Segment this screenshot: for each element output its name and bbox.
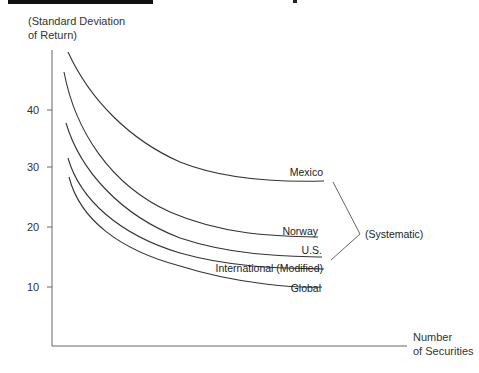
y-tick-label-10: 10 — [27, 281, 39, 293]
y-tick-label-40: 40 — [27, 104, 39, 116]
label-mexico: Mexico — [290, 166, 323, 178]
label-global: Global — [291, 282, 321, 294]
y-tick-label-20: 20 — [27, 221, 39, 233]
label-international: International (Modified) — [216, 262, 323, 274]
curve-mexico — [68, 52, 324, 181]
curve-norway — [64, 72, 318, 237]
y-tick-label-30: 30 — [27, 161, 39, 173]
label-systematic: (Systematic) — [365, 228, 423, 240]
label-norway: Norway — [282, 225, 318, 237]
systematic-bracket — [331, 182, 360, 260]
curve-international — [68, 158, 324, 269]
chart-canvas: 40 30 20 10 Mexico Norway U.S. Internati… — [0, 0, 479, 373]
label-us: U.S. — [302, 244, 322, 256]
